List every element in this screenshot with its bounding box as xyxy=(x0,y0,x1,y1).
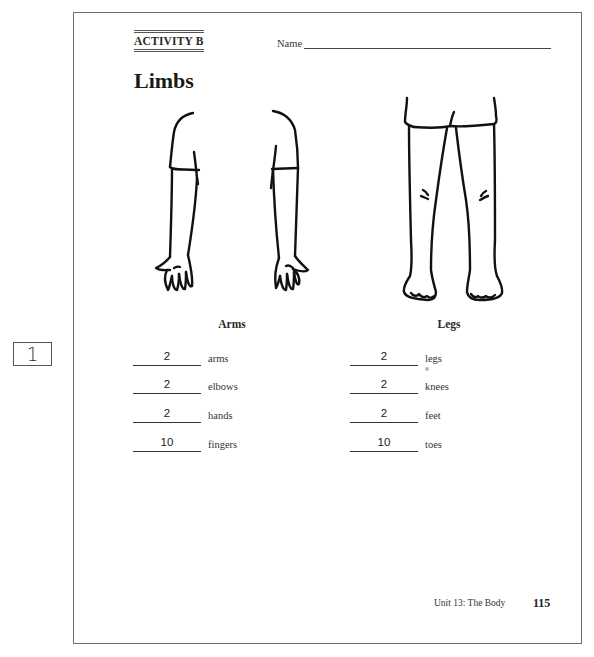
left-arm-drawing xyxy=(156,113,199,290)
page-title: Limbs xyxy=(134,68,194,94)
right-leg-drawing xyxy=(456,124,502,300)
legs-heading: Legs xyxy=(399,318,499,330)
footer-unit-title: Unit 13: The Body xyxy=(434,598,505,608)
answer-blank[interactable]: 2 xyxy=(133,378,201,394)
legs-illustration xyxy=(390,95,520,305)
answer-label: toes xyxy=(425,439,442,450)
answer-blank[interactable]: 2 xyxy=(350,378,418,394)
answer-label: feet xyxy=(425,410,441,421)
answer-label: knees xyxy=(425,381,449,392)
answer-label: legs xyxy=(425,353,442,364)
smudge-mark xyxy=(425,367,429,371)
answer-blank[interactable]: 2 xyxy=(350,407,418,423)
answer-blank[interactable]: 2 xyxy=(350,350,418,366)
name-label: Name xyxy=(277,38,302,49)
answer-label: arms xyxy=(208,353,228,364)
left-leg-drawing xyxy=(404,127,447,300)
arms-icon xyxy=(148,100,318,300)
shorts-drawing xyxy=(405,98,497,128)
page-number: 115 xyxy=(533,596,550,611)
arms-illustration xyxy=(148,100,318,300)
answer-blank[interactable]: 2 xyxy=(133,407,201,423)
legs-icon xyxy=(390,95,520,305)
answer-blank[interactable]: 10 xyxy=(350,436,418,452)
activity-label: ACTIVITY B xyxy=(134,30,204,52)
answer-blank[interactable]: 10 xyxy=(133,436,201,452)
right-arm-drawing xyxy=(271,111,308,290)
answer-label: fingers xyxy=(208,439,237,450)
answer-label: elbows xyxy=(208,381,238,392)
item-number-box: 1 xyxy=(13,342,52,366)
arms-heading: Arms xyxy=(182,318,282,330)
answer-blank[interactable]: 2 xyxy=(133,350,201,366)
answer-label: hands xyxy=(208,410,233,421)
item-number: 1 xyxy=(26,343,38,365)
name-field[interactable] xyxy=(304,48,551,49)
